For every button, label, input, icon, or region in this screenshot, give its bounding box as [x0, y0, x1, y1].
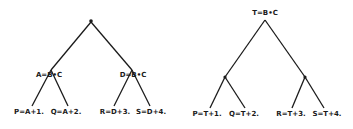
right-edge-mid-leaf-1	[225, 77, 245, 108]
right-leaf-label-3: S=T+4.	[312, 110, 341, 118]
right-leaf-label-1: Q=T+2.	[229, 110, 259, 118]
left-leaf-label-2: R=D+3.	[100, 108, 130, 116]
left-mid-label-0: A=B•C	[36, 71, 62, 79]
left-edge-root-mid-0	[51, 22, 91, 70]
left-tree: A=B•CD=B•CP=A+1.Q=A+2.R=D+3.S=D+4.	[14, 19, 166, 116]
left-mid-label-1: D=B•C	[120, 71, 147, 79]
right-leaf-label-0: P=T+1.	[192, 110, 221, 118]
left-edge-root-mid-1	[91, 22, 132, 70]
right-edge-mid-leaf-3	[305, 77, 324, 108]
right-edge-mid-leaf-2	[292, 77, 305, 108]
right-mid-dot-1	[303, 75, 306, 78]
right-edge-root-mid-0	[225, 20, 265, 77]
left-leaf-label-0: P=A+1.	[14, 108, 44, 116]
right-mid-dot-0	[223, 75, 226, 78]
left-root-dot	[89, 19, 93, 23]
right-edge-mid-leaf-0	[210, 77, 225, 108]
right-edge-root-mid-1	[265, 20, 305, 77]
right-root-label: T=B•C	[252, 9, 278, 17]
right-leaf-label-2: R=T+3.	[276, 110, 305, 118]
left-leaf-label-3: S=D+4.	[136, 108, 166, 116]
expression-tree-diagram: A=B•CD=B•CP=A+1.Q=A+2.R=D+3.S=D+4. T=B•C…	[0, 0, 353, 129]
left-leaf-label-1: Q=A+2.	[51, 108, 82, 116]
right-tree: T=B•CP=T+1.Q=T+2.R=T+3.S=T+4.	[192, 9, 341, 118]
